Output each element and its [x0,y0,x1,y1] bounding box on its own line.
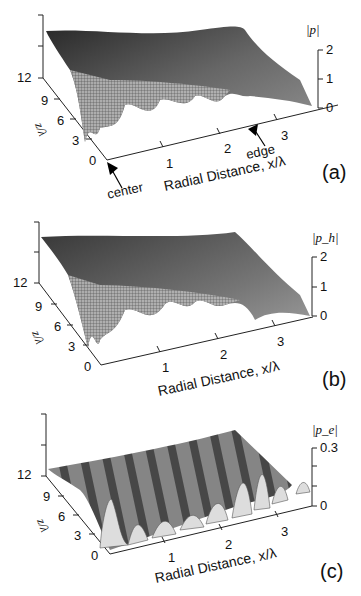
z-axis-title: |p_e| [312,422,338,438]
x-tick-3: 3 [281,128,288,143]
depth-tick-12: 12 [17,467,31,482]
panel-label-a: (a) [322,161,346,184]
z-tick-0: 0 [320,498,327,513]
center-arrow-icon [107,162,118,175]
panel-a: 12 9 6 3 0 z/λ 1 2 3 Radial Distance, x/… [0,0,361,200]
panel-b: 12 9 6 3 0 z/λ 1 2 3 Radial Distance, x/… [0,200,361,400]
surface-plot-b [0,200,361,400]
depth-tick-6: 6 [58,509,65,524]
depth-tick-9: 9 [41,93,48,108]
depth-tick-12: 12 [17,70,31,85]
panel-label-c: (c) [320,560,343,583]
depth-tick-0: 0 [91,548,98,563]
depth-tick-3: 3 [74,528,81,543]
z-tick-0: 0 [326,100,333,115]
z-tick-0: 0 [320,308,327,323]
depth-tick-12: 12 [13,275,27,290]
z-tick-2: 2 [326,42,333,57]
depth-tick-0: 0 [84,359,91,374]
panel-c: 12 9 6 3 0 z/λ 1 2 3 Radial Distance, x/… [0,400,361,596]
z-axis-title: |p| [306,22,320,38]
z-axis-title: |p_h| [312,230,339,246]
x-tick-2: 2 [220,347,227,362]
z-tick-1: 1 [326,71,333,86]
depth-tick-6: 6 [54,319,61,334]
z-tick-2: 2 [320,249,327,264]
panel-label-b: (b) [322,368,346,391]
x-tick-2: 2 [224,141,231,156]
x-tick-1: 1 [166,156,173,171]
z-tick-1: 1 [320,279,327,294]
x-tick-3: 3 [281,524,288,539]
x-tick-1: 1 [168,550,175,565]
depth-tick-0: 0 [89,153,96,168]
depth-tick-9: 9 [35,299,42,314]
x-tick-2: 2 [225,537,232,552]
x-tick-3: 3 [277,334,284,349]
depth-tick-3: 3 [68,339,75,354]
z-tick-0.3: 0.3 [320,440,338,455]
depth-tick-3: 3 [72,133,79,148]
depth-tick-6: 6 [57,113,64,128]
depth-tick-9: 9 [43,489,50,504]
x-tick-1: 1 [162,360,169,375]
